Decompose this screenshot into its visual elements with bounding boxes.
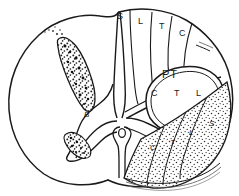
spinal-cord-diagram: S L T C PT C T L C T L S B <box>0 0 239 196</box>
dorsal-column-label-l: L <box>138 17 143 26</box>
pyramidal-tract-sublabel-l: L <box>196 89 201 98</box>
spinothalamic-label-c: C <box>150 144 156 152</box>
spinothalamic-label-s: S <box>209 120 214 128</box>
dorsal-column-label-s: S <box>117 12 123 21</box>
spinal-cord-svg <box>0 0 239 196</box>
pyramidal-tract-label: PT <box>162 69 178 80</box>
dorsal-median-sulcus <box>114 12 126 118</box>
dorsal-column-label-t: T <box>159 22 165 31</box>
lateral-band-label-b: B <box>84 111 89 119</box>
spinothalamic-label-l: L <box>189 129 193 137</box>
dorsal-column-label-c: C <box>179 29 186 38</box>
pyramidal-tract-sublabel-t: T <box>174 89 180 98</box>
lateral-degeneration-band <box>44 26 95 111</box>
dorsolateral-notch <box>196 42 213 51</box>
spinothalamic-label-t: T <box>170 139 175 147</box>
pyramidal-tract-sublabel-c: C <box>151 89 158 98</box>
